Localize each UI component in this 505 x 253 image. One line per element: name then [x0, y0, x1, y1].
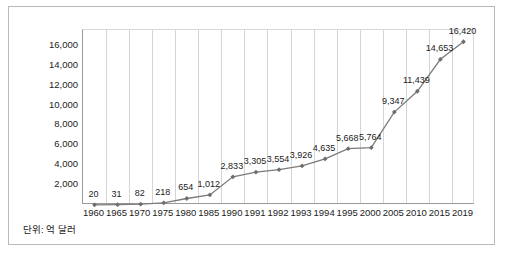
x-tick-label: 1980 [175, 207, 196, 218]
data-label: 9,347 [382, 96, 405, 106]
x-tick-label: 1991 [244, 207, 265, 218]
data-label: 5,668 [336, 133, 359, 143]
data-point-marker [277, 167, 282, 172]
y-tick-label: 16,000 [49, 40, 78, 50]
data-label: 14,653 [426, 43, 454, 53]
data-label: 2,833 [221, 161, 244, 171]
data-point-marker [138, 202, 143, 207]
data-label: 16,420 [449, 26, 477, 36]
x-tick-label: 1985 [198, 207, 219, 218]
series-line [95, 42, 464, 205]
x-tick-label: 2000 [360, 207, 381, 218]
data-point-marker [161, 200, 166, 205]
line-series [83, 30, 475, 205]
x-tick-label: 2015 [429, 207, 450, 218]
data-point-marker [346, 146, 351, 151]
data-point-marker [184, 196, 189, 201]
unit-note: 단위: 억 달러 [23, 222, 76, 236]
y-tick-label: 14,000 [49, 60, 78, 70]
data-label: 11,439 [403, 75, 430, 85]
y-tick-label: 2,000 [54, 179, 78, 189]
x-tick-label: 1960 [83, 207, 104, 218]
data-label: 3,926 [290, 150, 313, 160]
x-tick-label: 1992 [267, 207, 288, 218]
data-point-marker [254, 170, 259, 175]
x-tick-label: 1990 [221, 207, 242, 218]
y-axis-tick-labels: 2,0004,0006,0008,00010,00012,00014,00016… [27, 29, 78, 204]
data-label: 3,305 [244, 156, 267, 166]
x-tick-label: 1993 [290, 207, 311, 218]
data-point-marker [300, 164, 305, 169]
y-tick-label: 4,000 [54, 159, 78, 169]
x-tick-label: 2005 [383, 207, 404, 218]
plot-area [82, 29, 474, 204]
data-label: 82 [135, 188, 145, 198]
x-tick-label: 1994 [314, 207, 335, 218]
y-tick-label: 8,000 [54, 119, 78, 129]
x-tick-label: 1965 [106, 207, 127, 218]
x-tick-label: 1975 [152, 207, 173, 218]
data-label: 654 [178, 182, 193, 192]
y-tick-label: 6,000 [54, 139, 78, 149]
x-tick-label: 2010 [406, 207, 427, 218]
data-label: 218 [155, 187, 170, 197]
chart-container: 2,0004,0006,0008,00010,00012,00014,00016… [8, 6, 495, 245]
data-label: 20 [89, 189, 99, 199]
data-label: 31 [112, 189, 122, 199]
x-axis-tick-labels: 1960196519701975198019851990199119921993… [82, 207, 474, 221]
data-label: 5,764 [359, 132, 382, 142]
data-label: 3,554 [267, 154, 290, 164]
x-tick-label: 2019 [452, 207, 473, 218]
x-tick-label: 1970 [129, 207, 150, 218]
data-label: 4,635 [313, 143, 336, 153]
data-label: 1,012 [198, 179, 221, 189]
x-tick-label: 1995 [337, 207, 358, 218]
data-point-marker [323, 157, 328, 162]
y-tick-label: 12,000 [49, 80, 78, 90]
y-tick-label: 10,000 [49, 100, 78, 110]
